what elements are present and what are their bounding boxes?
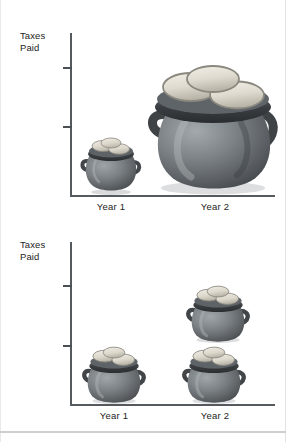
y-axis-tick-lower xyxy=(63,126,72,128)
money-pot-icon xyxy=(182,272,254,344)
y-axis-line xyxy=(70,33,72,196)
money-pot-icon xyxy=(78,118,144,196)
x-tick-label-year-2: Year 2 xyxy=(176,201,254,212)
money-pot-icon xyxy=(145,57,282,196)
y-axis-tick-upper xyxy=(63,285,72,287)
x-tick-label-year-1: Year 1 xyxy=(78,201,144,212)
page-footer-rule xyxy=(0,431,286,433)
y-axis-label: Taxes Paid xyxy=(20,30,66,53)
repeated-pictogram-chart: Taxes Paid xyxy=(0,221,286,442)
x-tick-label-year-2: Year 2 xyxy=(178,410,252,421)
y-axis-tick-lower xyxy=(63,345,72,347)
y-axis-label: Taxes Paid xyxy=(20,239,66,262)
y-axis-tick-upper xyxy=(63,67,72,69)
scaled-pictogram-chart: Taxes Paid xyxy=(0,0,286,221)
y-axis-line xyxy=(70,242,72,405)
money-pot-icon xyxy=(78,333,150,405)
figure-page: Taxes Paid xyxy=(0,0,286,442)
x-tick-label-year-1: Year 1 xyxy=(78,410,150,421)
